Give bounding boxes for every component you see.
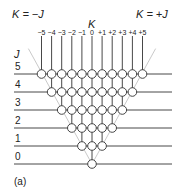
k-tick: +3 [118, 29, 126, 36]
k-tick: −1 [78, 29, 86, 36]
k-tick: +1 [98, 29, 106, 36]
state-node [108, 106, 117, 115]
state-node [88, 160, 97, 169]
state-node [78, 88, 87, 97]
k-tick: −3 [58, 29, 66, 36]
state-node [128, 88, 137, 97]
state-node [78, 106, 87, 115]
state-node [88, 88, 97, 97]
state-node [57, 70, 66, 79]
state-node [88, 106, 97, 115]
state-node [47, 70, 56, 79]
state-node [88, 124, 97, 133]
state-node [88, 142, 97, 151]
k-tick: +2 [108, 29, 116, 36]
state-node [47, 88, 56, 97]
j-level-label: 1 [15, 133, 21, 144]
state-node [128, 70, 137, 79]
state-node [78, 124, 87, 133]
state-node [78, 70, 87, 79]
state-node [108, 124, 117, 133]
state-node [68, 70, 77, 79]
state-node [57, 88, 66, 97]
state-node [98, 106, 107, 115]
state-node [118, 88, 127, 97]
state-node [108, 88, 117, 97]
state-node [98, 88, 107, 97]
state-node [68, 88, 77, 97]
j-axis-label: J [14, 48, 20, 60]
k-minus-j-label: K = −J [12, 8, 44, 20]
state-node [68, 124, 77, 133]
state-node [57, 106, 66, 115]
k-tick: +4 [128, 29, 136, 36]
state-node [138, 70, 147, 79]
k-plus-j-label: K = +J [136, 8, 168, 20]
state-node [108, 70, 117, 79]
j-level-label: 2 [15, 115, 21, 126]
k-tick: +5 [139, 29, 147, 36]
state-node [68, 106, 77, 115]
state-node [37, 70, 46, 79]
j-level-label: 5 [15, 61, 21, 72]
k-tick: −5 [38, 29, 46, 36]
j-level-label: 3 [15, 97, 21, 108]
state-node [98, 142, 107, 151]
k-tick: 0 [90, 29, 94, 36]
state-node [118, 70, 127, 79]
state-node [98, 124, 107, 133]
state-node [98, 70, 107, 79]
k-tick: −4 [48, 29, 56, 36]
state-node [118, 106, 127, 115]
j-level-label: 0 [15, 151, 21, 162]
k-tick: −2 [68, 29, 76, 36]
j-level-label: 4 [15, 79, 21, 90]
state-node [88, 70, 97, 79]
state-node [78, 142, 87, 151]
panel-label: (a) [14, 176, 26, 187]
